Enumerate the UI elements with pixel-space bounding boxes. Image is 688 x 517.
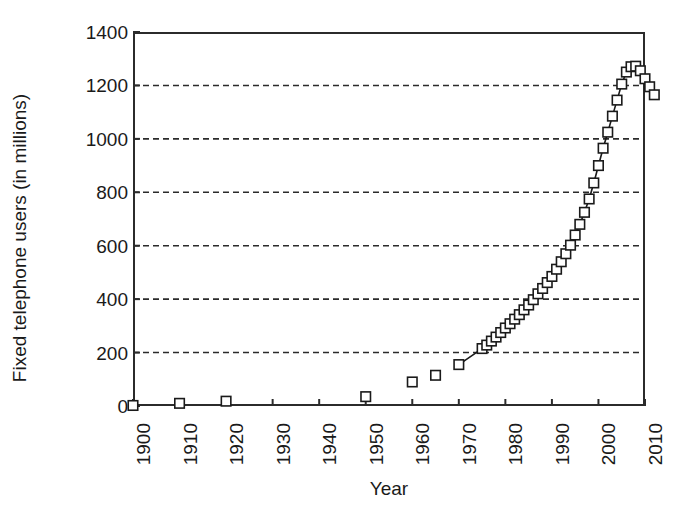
- x-axis-tick-labels: 1900191019201930194019501960197019801990…: [0, 0, 688, 517]
- x-tick-label: 2010: [645, 423, 667, 493]
- x-axis-title: Year: [133, 478, 645, 500]
- chart-figure: Fixed telephone users (in millions) 0200…: [0, 0, 688, 517]
